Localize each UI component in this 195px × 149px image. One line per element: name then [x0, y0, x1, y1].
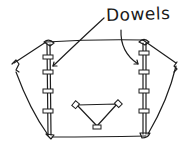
- clamp: [43, 70, 53, 74]
- left-dowel: [43, 40, 54, 139]
- clamp: [139, 109, 149, 113]
- dowel-frame-diagram: Dowels: [0, 0, 195, 149]
- arrow-to-right-dowel: [121, 30, 138, 64]
- triangle-clamp: [72, 101, 80, 109]
- clamp: [139, 51, 149, 55]
- arrow-to-left-dowel: [53, 18, 104, 66]
- clamp: [43, 109, 53, 113]
- dowels-label: Dowels: [106, 3, 171, 25]
- frame-outline: [12, 40, 177, 137]
- clamp: [139, 89, 149, 93]
- label-arrows: [53, 18, 138, 66]
- right-dowel: [139, 40, 150, 139]
- left-dowel-top-cap: [44, 40, 54, 46]
- clamp: [43, 55, 53, 59]
- clamp: [139, 70, 149, 74]
- clamp: [43, 89, 53, 93]
- triangle-brace: [72, 100, 122, 129]
- triangle-clamp: [93, 125, 101, 129]
- left-dowel-bottom-cap: [46, 134, 54, 139]
